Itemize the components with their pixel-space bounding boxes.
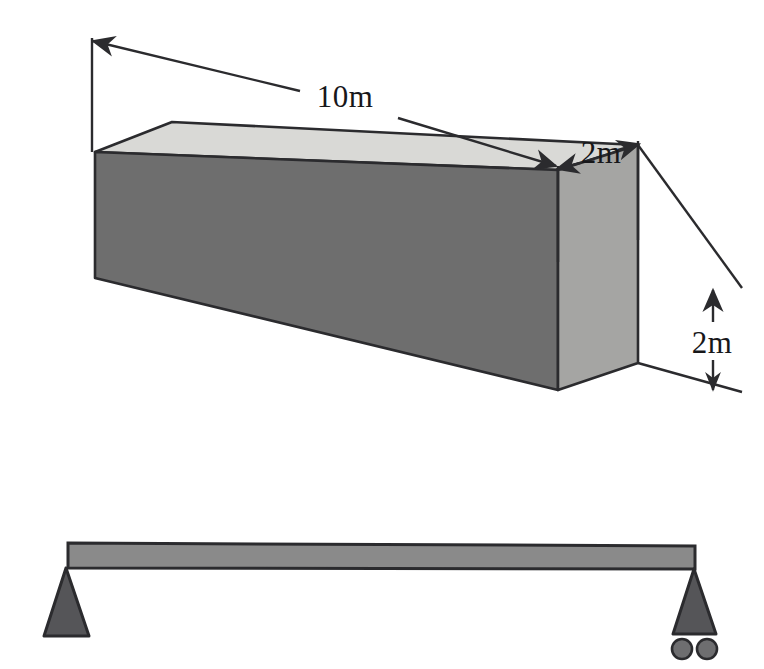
beam-diagram-figure: 10m 2m 2m (0, 0, 764, 669)
prism-front-face (95, 152, 558, 390)
height-leader-lower (638, 363, 742, 392)
width-dimension-label: 2m (581, 135, 622, 170)
pin-support-triangle (44, 568, 89, 636)
roller-wheel-right (697, 639, 717, 659)
rectangular-prism-beam (95, 122, 638, 390)
height-dimension-2m: 2m (638, 145, 742, 392)
diagram-canvas: 10m 2m 2m (0, 0, 764, 669)
height-dimension-label: 2m (692, 325, 733, 360)
height-leader-upper (638, 145, 742, 288)
prism-right-end-face (558, 145, 638, 390)
roller-support-triangle (673, 569, 716, 634)
beam-bar (68, 543, 695, 569)
roller-wheel-left (672, 639, 692, 659)
simply-supported-beam (44, 543, 717, 659)
length-dimension-label: 10m (317, 79, 374, 114)
length-leader-left (93, 41, 300, 91)
